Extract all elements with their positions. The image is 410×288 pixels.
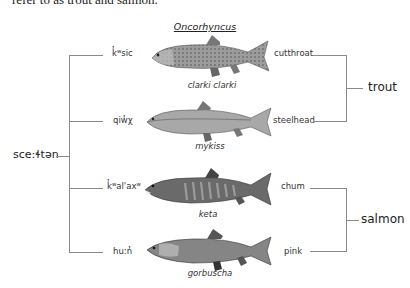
pink-fish-icon [145, 228, 273, 272]
common-name-pink: pink [284, 246, 302, 256]
left-bracket-vertical [69, 55, 70, 253]
indigenous-name-1: k̓ʷsic [112, 48, 133, 58]
intro-text: refer to as trout and salmon. [12, 0, 158, 8]
left-branch-1 [69, 55, 103, 56]
indigenous-name-2: qiw̓χ [113, 115, 133, 125]
group-label-trout: trout [368, 80, 397, 94]
indigenous-name-3: k̓ʷal'axʷ [107, 181, 141, 191]
species-label-1: clarki clarki [152, 80, 272, 90]
root-label: sce:ɬtən [13, 148, 59, 161]
indigenous-name-4: hu:n̓ [113, 246, 132, 256]
left-branch-2 [69, 121, 103, 122]
salmon-branch-1 [310, 188, 346, 189]
left-branch-3 [69, 188, 103, 189]
left-branch-4 [69, 252, 103, 253]
trout-connector [346, 88, 363, 89]
common-name-cutthroat: cutthroat [274, 48, 313, 58]
steelhead-fish-icon [145, 100, 273, 144]
chum-fish-icon [143, 168, 273, 212]
cutthroat-fish-icon [150, 32, 272, 82]
species-label-3: keta [148, 209, 268, 219]
genus-title: Oncorhyncus [0, 21, 410, 32]
trout-branch-1 [313, 55, 346, 56]
salmon-connector [346, 220, 359, 221]
group-label-salmon: salmon [361, 212, 405, 226]
salmon-branch-2 [310, 251, 346, 252]
root-connector [56, 156, 69, 157]
common-name-chum: chum [281, 181, 305, 191]
species-label-2: mykiss [150, 141, 270, 151]
species-label-4: gorbuscha [150, 268, 270, 278]
trout-branch-2 [313, 121, 346, 122]
common-name-steelhead: steelhead [273, 115, 315, 125]
